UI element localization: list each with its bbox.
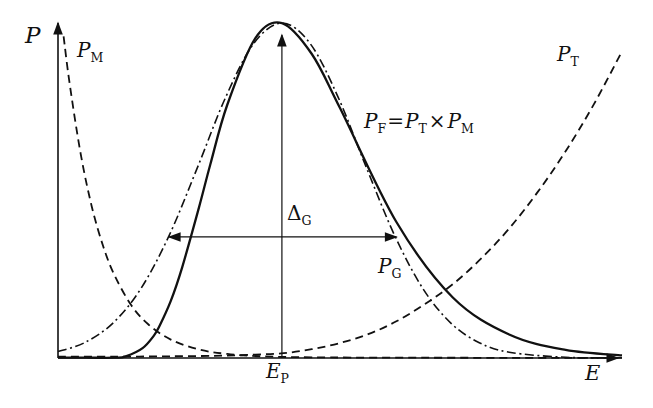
annotations-layer [169,35,396,358]
curve-maxwell [64,36,622,358]
x-axis-label: E [585,363,600,384]
y-axis-label: P [25,24,40,47]
curve-label-maxwell: PM [77,40,103,60]
curve-label-tunneling: PT [557,44,579,64]
curve-tunneling [58,51,622,356]
curve-label-gaussian: PG [378,256,401,276]
curves-layer [58,22,622,358]
x-axis-label-text: E [585,361,600,385]
width-annotation-label: ΔG [287,203,311,223]
curve-label-gamow-equation: PF=PT×PM [364,111,474,131]
curve-gaussian [58,23,622,358]
y-axis-label-text: P [25,22,40,48]
peak-energy-label: EP [266,361,289,381]
curve-gamow-peak [58,22,622,357]
gamow-peak-figure: P PM PT PF=PT×PM PG ΔG EP E [0,0,653,408]
